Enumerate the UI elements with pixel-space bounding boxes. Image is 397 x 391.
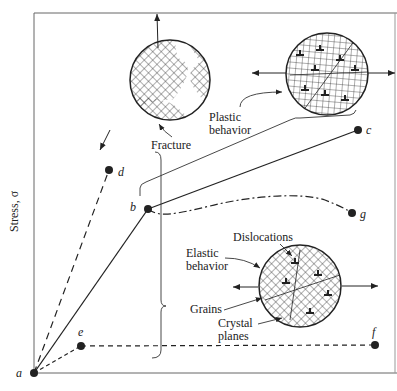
fracture-microstructure xyxy=(100,14,212,150)
elastic-microstructure xyxy=(233,244,378,328)
point-label-d: d xyxy=(118,165,125,179)
elastic-brace xyxy=(152,152,166,358)
point-label-c: c xyxy=(366,123,372,137)
y-axis-label: Stress, σ xyxy=(7,190,21,232)
plastic-microstructure xyxy=(252,31,395,117)
label-plastic-1: Plastic xyxy=(209,110,241,124)
point-label-e: e xyxy=(78,325,84,339)
point-label-a: a xyxy=(16,366,22,380)
curve-a-e xyxy=(34,346,81,373)
label-crystal-1: Crystal xyxy=(218,316,253,330)
point-label-b: b xyxy=(130,200,136,214)
point-label-f: f xyxy=(372,325,377,339)
point-label-g: g xyxy=(360,207,366,221)
curve-e-f xyxy=(81,345,375,346)
label-fracture: Fracture xyxy=(151,138,191,152)
label-dislocations: Dislocations xyxy=(233,230,293,244)
curve-a-b-elastic xyxy=(34,209,148,373)
label-elastic-1: Elastic xyxy=(186,246,219,260)
label-crystal-2: planes xyxy=(218,329,249,343)
stress-diagram: Stress, σ a b c d e f g Fractu xyxy=(0,0,397,391)
curve-a-d-brittle xyxy=(34,170,109,373)
label-plastic-2: behavior xyxy=(209,123,251,137)
label-elastic-2: behavior xyxy=(186,259,228,273)
label-grains: Grains xyxy=(190,302,222,316)
curve-b-g xyxy=(148,196,352,214)
